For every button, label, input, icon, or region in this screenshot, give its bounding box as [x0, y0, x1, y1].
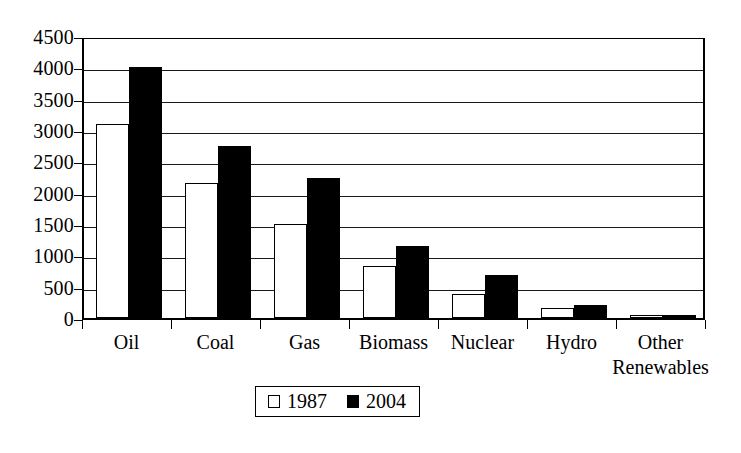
- x-axis-tick-mark: [349, 320, 350, 329]
- bar-group: [262, 36, 351, 318]
- bar-group: [440, 36, 529, 318]
- bar-hydro-1987: [541, 308, 574, 318]
- legend-entry-2004: 2004: [347, 391, 406, 411]
- y-axis-tick-label: 1000: [33, 246, 74, 266]
- bar-oil-1987: [96, 124, 129, 318]
- legend-label-1987: 1987: [287, 391, 327, 411]
- y-axis-tick-label: 2500: [33, 152, 74, 172]
- bar-other-renewables-1987: [630, 315, 663, 318]
- bar-biomass-2004: [396, 246, 429, 318]
- bar-biomass-1987: [363, 266, 396, 318]
- bar-oil-2004: [129, 67, 162, 318]
- x-axis-tick-mark: [171, 320, 172, 329]
- x-axis-tick-mark: [527, 320, 528, 329]
- bar-chart: 450040003500300025002000150010005000 Oil…: [0, 0, 741, 453]
- x-axis-tick-mark: [616, 320, 617, 329]
- legend-swatch-white-square-icon: [268, 395, 280, 408]
- y-axis-tick-label: 3500: [33, 90, 74, 110]
- x-axis-tick-mark: [260, 320, 261, 329]
- bar-gas-1987: [274, 224, 307, 318]
- x-axis-tick-mark: [705, 320, 706, 329]
- bar-nuclear-1987: [452, 294, 485, 318]
- bar-other-renewables-2004: [663, 315, 696, 318]
- chart-legend: 1987 2004: [255, 386, 420, 417]
- y-axis-tick-label: 1500: [33, 215, 74, 235]
- x-axis-tick-mark: [82, 320, 83, 329]
- x-axis-label-other-renewables: Other Renewables: [601, 330, 720, 380]
- x-axis-tick-mark: [438, 320, 439, 329]
- y-axis-tick-label: 3000: [33, 121, 74, 141]
- legend-entry-1987: 1987: [268, 391, 327, 411]
- y-axis-tick-label: 500: [43, 278, 74, 298]
- bar-coal-2004: [218, 146, 251, 318]
- bar-nuclear-2004: [485, 275, 518, 318]
- bar-group: [529, 36, 618, 318]
- y-axis-tick-label: 4000: [33, 58, 74, 78]
- bar-hydro-2004: [574, 305, 607, 318]
- legend-label-2004: 2004: [366, 391, 406, 411]
- plot-area: [82, 38, 705, 320]
- y-axis-tick-label: 4500: [33, 27, 74, 47]
- y-axis-labels: 450040003500300025002000150010005000: [0, 0, 74, 453]
- bar-coal-1987: [185, 183, 218, 318]
- bar-group: [618, 36, 707, 318]
- y-axis-tick-label: 2000: [33, 184, 74, 204]
- bar-gas-2004: [307, 178, 340, 318]
- bar-group: [173, 36, 262, 318]
- bar-group: [351, 36, 440, 318]
- y-axis-tick-label: 0: [64, 309, 74, 329]
- bar-group: [84, 36, 173, 318]
- legend-swatch-black-square-icon: [347, 395, 359, 408]
